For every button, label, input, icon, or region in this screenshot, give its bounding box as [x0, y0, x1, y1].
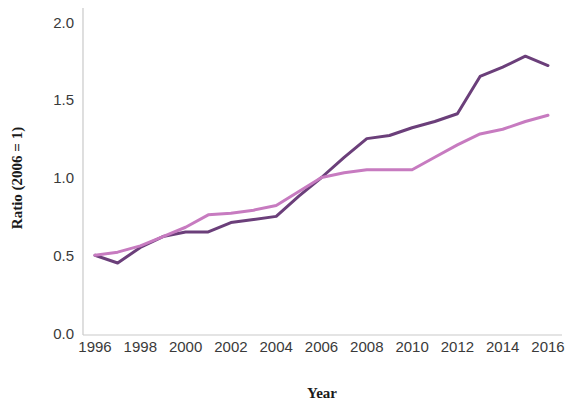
y-tick-label: 1.0 — [53, 169, 74, 186]
x-tick-label: 2006 — [305, 338, 338, 355]
chart-figure: 0.00.51.01.52.0 199619982000200220042006… — [0, 0, 567, 407]
x-tick-label: 2000 — [169, 338, 202, 355]
x-axis-title: Year — [307, 385, 337, 401]
x-axis-tick-labels: 1996199820002002200420062008201020122014… — [78, 338, 564, 355]
x-tick-label: 2014 — [486, 338, 519, 355]
x-tick-label: 1998 — [124, 338, 157, 355]
x-tick-label: 2016 — [531, 338, 564, 355]
line-chart: 0.00.51.01.52.0 199619982000200220042006… — [0, 0, 567, 407]
y-axis-title: Ratio (2006 = 1) — [9, 127, 26, 229]
x-tick-label: 2008 — [350, 338, 383, 355]
y-tick-label: 0.0 — [53, 325, 74, 342]
x-tick-label: 2012 — [441, 338, 474, 355]
x-tick-label: 2004 — [260, 338, 293, 355]
y-tick-label: 1.5 — [53, 91, 74, 108]
x-tick-label: 2010 — [395, 338, 428, 355]
y-tick-label: 0.5 — [53, 247, 74, 264]
y-tick-label: 2.0 — [53, 14, 74, 31]
x-tick-label: 2002 — [214, 338, 247, 355]
x-tick-label: 1996 — [78, 338, 111, 355]
